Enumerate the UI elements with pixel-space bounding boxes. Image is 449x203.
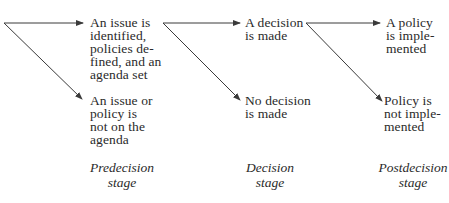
stage-3-arrows (306, 23, 382, 101)
predecision-outcome-top: An issue is identified, policies de- fin… (90, 16, 161, 81)
stage-label-line2: stage (358, 175, 449, 190)
decision-outcome-top: A decision is made (245, 16, 303, 42)
arrow-predecision-bottom (4, 23, 82, 99)
stage-label-line1: Postdecision (358, 160, 449, 175)
arrow-decision-bottom (163, 23, 240, 100)
postdecision-stage-label: Postdecision stage (358, 160, 449, 190)
stage-2-arrows (163, 23, 240, 100)
postdecision-outcome-bottom: Policy is not imple- mented (384, 94, 441, 133)
stage-label-line1: Predecision (67, 160, 177, 175)
predecision-stage-label: Predecision stage (67, 160, 177, 190)
postdecision-outcome-top: A policy is imple- mented (386, 16, 435, 55)
arrow-postdecision-bottom (306, 23, 382, 101)
decision-stage-label: Decision stage (215, 160, 325, 190)
stage-label-line2: stage (215, 175, 325, 190)
decision-outcome-bottom: No decision is made (245, 94, 311, 120)
stage-1-arrows (4, 23, 83, 99)
stage-label-line1: Decision (215, 160, 325, 175)
predecision-outcome-bottom: An issue or policy is not on the agenda (90, 94, 153, 146)
stage-label-line2: stage (67, 175, 177, 190)
